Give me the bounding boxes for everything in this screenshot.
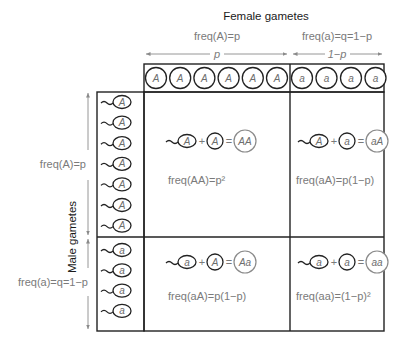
sperm-A-icon: A <box>101 157 131 170</box>
svg-text:+: + <box>331 135 337 147</box>
female-eggs: AAAAAAaaaa <box>146 68 387 89</box>
svg-text:a: a <box>373 73 379 84</box>
male-a-frequency-label: freq(a)=q=1−p <box>18 276 88 288</box>
svg-text:A: A <box>315 136 323 147</box>
svg-text:+: + <box>331 256 337 268</box>
cell-AA: A+A=AA <box>166 130 256 152</box>
male-gametes-title: Male gametes <box>66 201 78 273</box>
svg-text:AA: AA <box>237 136 252 147</box>
zygote-icon: Aa <box>234 251 256 273</box>
sperm-A-icon: A <box>166 135 196 148</box>
sperm-a-icon: a <box>298 256 328 269</box>
sperm-A-icon: A <box>101 137 131 150</box>
punnett-square-diagram: Female gametes freq(A)=p freq(a)=q=1−p p… <box>0 0 399 342</box>
egg-A-icon: A <box>207 254 223 270</box>
svg-text:a: a <box>119 305 125 316</box>
cell-aA-top-frequency: freq(aA)=p(1−p) <box>296 174 374 186</box>
male-A-frequency-label: freq(A)=p <box>40 158 86 170</box>
egg-A-icon: A <box>267 68 288 89</box>
female-A-frequency-label: freq(A)=p <box>194 30 240 42</box>
svg-text:a: a <box>119 285 125 296</box>
zygote-icon: aa <box>366 251 388 273</box>
svg-text:A: A <box>183 136 191 147</box>
sperm-A-icon: A <box>101 199 131 212</box>
egg-a-icon: a <box>341 68 362 89</box>
sperm-A-icon: A <box>101 96 131 109</box>
female-a-frequency-label: freq(a)=q=1−p <box>302 30 372 42</box>
svg-text:A: A <box>200 73 208 84</box>
sperm-a-icon: a <box>166 256 196 269</box>
egg-a-icon: a <box>365 68 386 89</box>
svg-text:A: A <box>118 200 126 211</box>
svg-text:A: A <box>118 220 126 231</box>
egg-a-icon: a <box>339 254 355 270</box>
svg-text:A: A <box>118 179 126 190</box>
svg-text:a: a <box>184 257 190 268</box>
svg-text:a: a <box>348 73 354 84</box>
svg-text:A: A <box>152 73 160 84</box>
cell-aa: a+a=aa <box>298 251 388 273</box>
svg-text:+: + <box>199 256 205 268</box>
svg-text:A: A <box>273 73 281 84</box>
sperm-A-icon: A <box>101 178 131 191</box>
sperm-a-icon: a <box>101 304 131 317</box>
svg-text:a: a <box>344 136 350 147</box>
svg-text:+: + <box>199 135 205 147</box>
sperm-a-icon: a <box>101 284 131 297</box>
svg-text:a: a <box>324 73 330 84</box>
svg-text:A: A <box>118 97 126 108</box>
svg-text:=: = <box>226 135 232 147</box>
svg-text:a: a <box>316 257 322 268</box>
svg-text:A: A <box>118 117 126 128</box>
svg-text:A: A <box>176 73 184 84</box>
egg-A-icon: A <box>170 68 191 89</box>
egg-A-icon: A <box>146 68 167 89</box>
svg-text:aa: aa <box>371 257 383 268</box>
egg-a-icon: a <box>339 133 355 149</box>
sperm-a-icon: a <box>101 244 131 257</box>
svg-text:A: A <box>211 136 219 147</box>
svg-text:a: a <box>299 73 305 84</box>
svg-text:A: A <box>118 138 126 149</box>
female-gametes-title: Female gametes <box>223 10 309 22</box>
cell-AA-frequency: freq(AA)=p² <box>168 174 225 186</box>
svg-text:A: A <box>224 73 232 84</box>
cell-aA-top: A+a=aA <box>298 130 388 152</box>
zygote-icon: aA <box>366 130 388 152</box>
egg-a-icon: a <box>316 68 337 89</box>
female-A-span-arrow: p <box>146 48 287 60</box>
svg-text:a: a <box>119 265 125 276</box>
svg-text:a: a <box>119 245 125 256</box>
egg-A-icon: A <box>207 133 223 149</box>
sperm-A-icon: A <box>101 219 131 232</box>
sperm-a-icon: a <box>101 264 131 277</box>
sperm-A-icon: A <box>298 135 328 148</box>
female-a-span-label: 1−p <box>328 48 347 60</box>
sperm-A-icon: A <box>101 116 131 129</box>
svg-text:A: A <box>211 257 219 268</box>
svg-text:=: = <box>226 256 232 268</box>
svg-text:A: A <box>118 158 126 169</box>
female-A-span-label: p <box>213 48 220 60</box>
cell-aa-frequency: freq(aa)=(1−p)² <box>296 290 371 302</box>
svg-text:A: A <box>248 73 256 84</box>
egg-A-icon: A <box>194 68 215 89</box>
zygote-icon: AA <box>234 130 256 152</box>
svg-text:=: = <box>358 135 364 147</box>
egg-A-icon: A <box>242 68 263 89</box>
female-a-span-arrow: 1−p <box>293 48 382 60</box>
svg-text:=: = <box>358 256 364 268</box>
male-sperm: AAAAAAAaaaa <box>101 96 131 318</box>
svg-text:Aa: Aa <box>238 257 252 268</box>
cell-aA-bottom: a+A=Aa <box>166 251 256 273</box>
cell-aA-bottom-frequency: freq(aA)=p(1−p) <box>168 290 246 302</box>
svg-text:a: a <box>344 257 350 268</box>
svg-text:aA: aA <box>371 136 384 147</box>
egg-A-icon: A <box>218 68 239 89</box>
egg-a-icon: a <box>292 68 313 89</box>
